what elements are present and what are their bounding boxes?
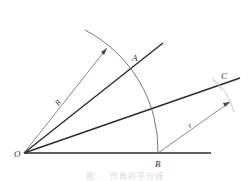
label-A: A: [131, 53, 138, 63]
label-O: O: [14, 149, 21, 159]
label-C: C: [221, 71, 228, 81]
ray-OA: [24, 43, 163, 153]
label-r: r: [186, 121, 194, 131]
dimension-R: [24, 48, 107, 153]
label-B: B: [155, 159, 161, 169]
construction-diagram: O A B C R r: [0, 0, 249, 181]
dimension-r: [158, 102, 230, 153]
arc-R: [85, 30, 158, 153]
label-R: R: [52, 98, 63, 108]
ray-OC: [24, 78, 240, 153]
figure-caption: 图 … 作角的平分线: [0, 170, 249, 181]
